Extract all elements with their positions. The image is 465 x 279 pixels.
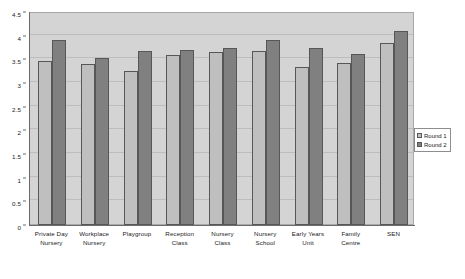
x-tick-label-line: Playgroup	[116, 229, 159, 238]
bar-round-1[interactable]	[337, 63, 351, 225]
x-tick-label: WorkplaceNursery	[73, 229, 116, 247]
y-tick-mark	[23, 154, 26, 155]
y-tick-mark	[23, 177, 26, 178]
legend-item[interactable]: Round 1	[417, 131, 447, 140]
bar-round-1[interactable]	[81, 64, 95, 225]
x-tick-label-line: Nursery	[30, 238, 73, 247]
x-tick-label-line: School	[244, 238, 287, 247]
bar-group	[73, 12, 116, 225]
legend-swatch-icon	[417, 133, 422, 138]
x-tick-label-line: Workplace	[73, 229, 116, 238]
bar-round-2[interactable]	[223, 48, 237, 225]
y-tick-mark	[23, 225, 26, 226]
x-tick-label-line: Family	[329, 229, 372, 238]
bar-group	[30, 12, 73, 225]
x-tick-label: SEN	[372, 229, 415, 238]
x-tick-label: ReceptionClass	[158, 229, 201, 247]
chart-legend: Round 1Round 2	[414, 128, 451, 152]
x-tick-label: FamilyCentre	[329, 229, 372, 247]
bar-round-1[interactable]	[380, 43, 394, 225]
y-tick-mark	[23, 106, 26, 107]
legend-label: Round 1	[424, 133, 447, 139]
bar-chart: 00.511.522.533.544.5 Private DayNurseryW…	[0, 0, 465, 279]
x-tick-label-line: Early Years	[287, 229, 330, 238]
bar-group	[287, 12, 330, 225]
y-tick-mark	[23, 130, 26, 131]
bar-round-2[interactable]	[52, 40, 66, 225]
bar-round-1[interactable]	[166, 55, 180, 225]
x-tick-label-line: Nursery	[244, 229, 287, 238]
bar-group	[201, 12, 244, 225]
x-tick-label-line: Unit	[287, 238, 330, 247]
x-tick-label: Private DayNursery	[30, 229, 73, 247]
bar-round-2[interactable]	[394, 31, 408, 225]
bar-group	[158, 12, 201, 225]
bar-round-2[interactable]	[95, 58, 109, 225]
bar-group	[244, 12, 287, 225]
bars-layer	[30, 12, 413, 225]
y-tick-mark	[23, 12, 26, 13]
bar-round-1[interactable]	[38, 61, 52, 225]
y-tick-mark	[23, 83, 26, 84]
x-tick-label: NurseryClass	[201, 229, 244, 247]
bar-round-2[interactable]	[266, 40, 280, 225]
x-tick-label-line: Private Day	[30, 229, 73, 238]
legend-label: Round 2	[424, 142, 447, 148]
bar-round-2[interactable]	[180, 50, 194, 225]
bar-round-1[interactable]	[252, 51, 266, 225]
x-tick-label-line: Reception	[158, 229, 201, 238]
bar-group	[372, 12, 415, 225]
legend-item[interactable]: Round 2	[417, 140, 447, 149]
x-tick-label-line: Nursery	[73, 238, 116, 247]
y-axis: 00.511.522.533.544.5	[0, 12, 26, 225]
x-tick-label-line: Nursery	[201, 229, 244, 238]
x-tick-label-line: Centre	[329, 238, 372, 247]
y-tick-mark	[23, 59, 26, 60]
bar-group	[329, 12, 372, 225]
x-axis-line	[29, 225, 415, 226]
bar-round-2[interactable]	[138, 51, 152, 225]
y-tick-mark	[23, 35, 26, 36]
bar-round-2[interactable]	[351, 54, 365, 225]
bar-round-1[interactable]	[124, 71, 138, 225]
legend-swatch-icon	[417, 142, 422, 147]
x-axis: Private DayNurseryWorkplaceNurseryPlaygr…	[30, 229, 413, 277]
x-tick-label-line: SEN	[372, 229, 415, 238]
x-tick-label-line: Class	[201, 238, 244, 247]
bar-round-2[interactable]	[309, 48, 323, 225]
x-tick-label: Early YearsUnit	[287, 229, 330, 247]
bar-round-1[interactable]	[209, 52, 223, 225]
x-tick-label: Playgroup	[116, 229, 159, 238]
bar-round-1[interactable]	[295, 67, 309, 225]
x-tick-label: NurserySchool	[244, 229, 287, 247]
x-tick-label-line: Class	[158, 238, 201, 247]
y-tick-mark	[23, 201, 26, 202]
bar-group	[116, 12, 159, 225]
